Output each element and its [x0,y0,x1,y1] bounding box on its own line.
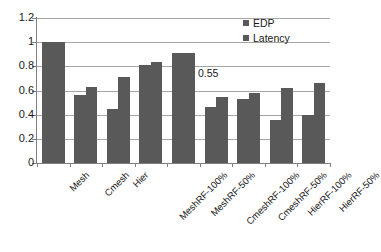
bar [118,77,130,163]
bar [107,109,119,163]
x-tick-mark [265,163,266,167]
x-tick-mark [297,163,298,167]
y-tick-label: 1.2 [2,12,34,23]
x-axis-line [37,163,330,164]
bar-group [172,18,195,163]
x-tick-mark [167,163,168,167]
x-tick-label: Mesh [68,170,92,194]
legend-item-latency: Latency [243,32,290,44]
legend-label: Latency [253,32,290,44]
bar [314,83,326,163]
x-tick-mark [135,163,136,167]
legend-swatch-icon [243,35,249,41]
bar [270,120,282,164]
bar [249,93,261,163]
y-tick-label: 1 [2,36,34,47]
bar [86,87,98,163]
bar [302,115,314,163]
bar [172,53,184,163]
x-tick-mark [200,163,201,167]
bar [205,107,217,163]
bar-group [139,18,162,163]
chart-legend: EDP Latency [243,17,290,44]
bar [184,53,196,163]
bar [53,42,65,163]
legend-swatch-icon [243,20,249,26]
legend-label: EDP [253,17,275,29]
data-label-annotation: 0.55 [198,68,218,79]
bar [237,99,249,163]
bar-group [42,18,65,163]
x-tick-mark [102,163,103,167]
bar [151,62,163,164]
bar [74,95,86,163]
x-tick-mark [330,163,331,167]
x-tick-mark [37,163,38,167]
y-tick-label: 0 [2,157,34,168]
x-tick-label: Cmesh [103,170,131,198]
bar [216,97,228,163]
bar-group [205,18,228,163]
bar-group [74,18,97,163]
bar-group [302,18,325,163]
y-tick-label: 0.6 [2,85,34,96]
bar [139,65,151,163]
y-tick-label: 0.4 [2,109,34,120]
bar-group [107,18,130,163]
bar [42,42,54,163]
legend-item-edp: EDP [243,17,290,29]
x-tick-mark [70,163,71,167]
x-tick-label: Hier [131,170,150,189]
y-tick-label: 0.8 [2,60,34,71]
y-tick-label: 0.2 [2,133,34,144]
x-tick-mark [232,163,233,167]
bar [281,88,293,163]
